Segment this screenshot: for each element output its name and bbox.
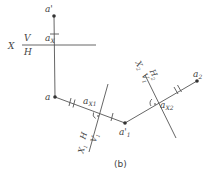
figure-caption: (b): [114, 159, 127, 169]
label-x-axis-h: H: [23, 47, 32, 57]
label-ax2: aX2: [160, 100, 174, 111]
point-a1-prime: [123, 121, 127, 125]
point-a-prime: [52, 14, 56, 18]
x1-axis-labels: X1 H V1: [74, 129, 101, 158]
projection-diagram: a' a a'1 a2 aX aX1 aX2 X V H X1 H V1 X2 …: [0, 0, 217, 180]
label-x1-h: H: [78, 130, 89, 141]
label-a1-prime: a'1: [119, 127, 131, 138]
label-x-axis: X: [7, 41, 15, 51]
label-a: a: [45, 92, 50, 102]
label-x1-v1: V1: [89, 132, 101, 143]
label-ax1: aX1: [83, 96, 96, 107]
single-tick: [111, 113, 113, 121]
right-angle-dot-x2: [154, 103, 156, 105]
point-a: [53, 95, 57, 99]
label-x1-axis: X1: [76, 143, 88, 155]
label-a2: a2: [193, 69, 202, 80]
x2-axis-labels: X2 V1 H2: [132, 54, 160, 85]
label-x-axis-v: V: [24, 33, 32, 43]
label-a-prime: a': [45, 4, 53, 14]
right-angle-arc-x1: [93, 113, 95, 119]
projection-line-a-prime-a: [54, 16, 55, 97]
label-x2-axis: X2: [132, 58, 145, 71]
right-angle-arc-x2: [150, 99, 152, 106]
right-angle-dot-x1: [97, 115, 99, 117]
